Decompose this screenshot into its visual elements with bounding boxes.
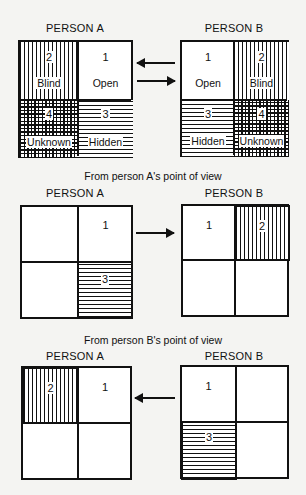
quadrant-hidden: 3 Hidden (182, 100, 234, 157)
bottom-grid-person-a: 2 1 (21, 366, 132, 480)
arrow-left-icon (135, 397, 175, 399)
top-grid-person-b: 1 Open 2 Blind 3 Hidden 4 Unknown (180, 40, 289, 157)
quadrant-3-highlighted: 3 (77, 261, 133, 319)
quadrant-hidden: 3 Hidden (78, 100, 133, 158)
bottom-grid-person-b: 1 3 (180, 365, 289, 479)
bottom-person-a-heading: PERSON A (15, 350, 135, 362)
quadrant-1: 1 (182, 367, 235, 422)
middle-grid-person-a: 1 3 (20, 205, 133, 319)
quadrant-1: 1 (183, 206, 235, 260)
quadrant-3-highlighted: 3 (181, 421, 237, 480)
caption-person-b-view: From person B's point of view (0, 334, 306, 346)
top-person-b-heading: PERSON B (174, 22, 294, 34)
quadrant-unknown: 4 Unknown (234, 100, 289, 157)
quadrant-blind: 2 Blind (234, 42, 289, 100)
caption-person-a-view: From person A's point of view (0, 170, 306, 182)
quadrant-label: Blind (36, 77, 61, 89)
middle-person-b-heading: PERSON B (174, 187, 294, 199)
arrow-right-icon (137, 80, 175, 82)
bottom-person-b-heading: PERSON B (174, 350, 294, 362)
quadrant-1: 1 (78, 368, 132, 423)
quadrant-open: 1 Open (182, 42, 234, 100)
top-person-a-heading: PERSON A (15, 22, 135, 34)
quadrant-blind: 2 Blind (20, 42, 78, 100)
arrow-left-icon (137, 62, 175, 64)
arrow-right-icon (136, 232, 174, 234)
quadrant-number: 2 (45, 51, 53, 63)
quadrant-1: 1 (78, 207, 133, 262)
quadrant-2-highlighted: 2 (22, 367, 79, 424)
quadrant-open: 1 Open (78, 42, 133, 100)
middle-person-a-heading: PERSON A (15, 187, 135, 199)
top-grid-person-a: 2 Blind 1 Open 4 Unknown 3 Hidden (18, 40, 133, 158)
quadrant-unknown: 4 Unknown (20, 100, 78, 158)
quadrant-2-highlighted: 2 (234, 205, 290, 261)
middle-grid-person-b: 1 2 (181, 204, 289, 317)
